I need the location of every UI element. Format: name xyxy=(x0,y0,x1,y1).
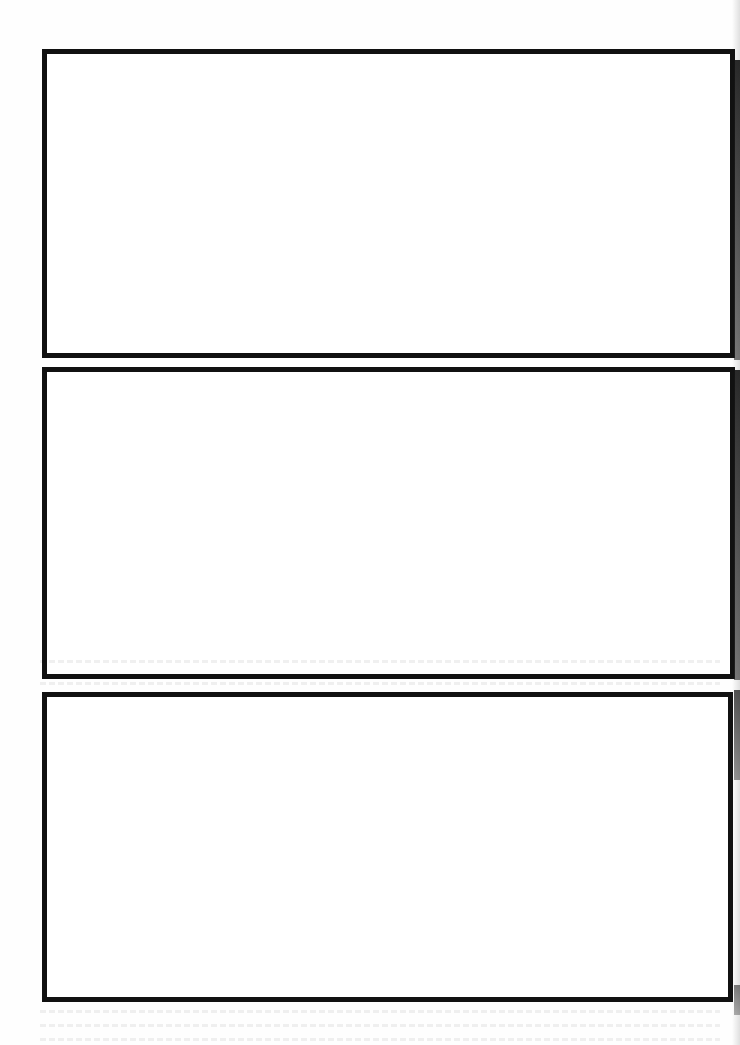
binding-edge xyxy=(734,60,740,360)
bleed-through-text xyxy=(40,1024,720,1027)
binding-edge xyxy=(734,985,740,1015)
panel-frame-2 xyxy=(42,367,735,679)
bleed-through-text xyxy=(40,1010,720,1013)
panel-frame-3 xyxy=(42,692,733,1002)
binding-edge xyxy=(734,690,740,780)
scanned-page xyxy=(0,0,740,1045)
binding-edge xyxy=(734,370,740,680)
panel-frame-1 xyxy=(42,49,735,358)
bleed-through-text xyxy=(40,682,720,685)
bleed-through-text xyxy=(40,1038,720,1041)
bleed-through-text xyxy=(40,660,720,663)
